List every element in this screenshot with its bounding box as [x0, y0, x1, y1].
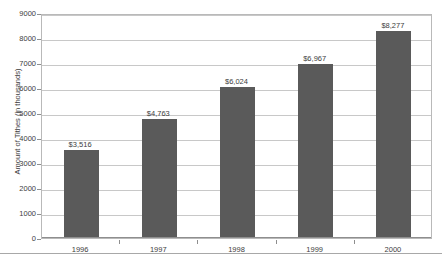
- bar: [298, 64, 333, 238]
- x-tick-mark: [197, 240, 198, 244]
- y-tick-label: 7000: [2, 60, 36, 68]
- bar: [220, 87, 255, 238]
- x-tick-mark: [354, 240, 355, 244]
- y-axis-title: Amount of Tithes (in thousands): [13, 47, 22, 197]
- y-tick-label: 4000: [2, 135, 36, 143]
- y-tick-label: 0: [2, 235, 36, 243]
- y-tick-label: 8000: [2, 35, 36, 43]
- y-tick-label-wrap: 8000: [0, 35, 36, 43]
- bar: [376, 31, 411, 238]
- bottom-divider: [0, 253, 442, 254]
- bar: [64, 150, 99, 238]
- bar-value-label: $3,516: [50, 140, 110, 149]
- y-tick-mark: [37, 239, 41, 240]
- x-tick-mark: [276, 240, 277, 244]
- bar: [142, 119, 177, 238]
- y-tick-label-wrap: 2000: [0, 185, 36, 193]
- y-tick-label: 9000: [2, 10, 36, 18]
- x-tick-mark: [119, 240, 120, 244]
- y-tick-label-wrap: 3000: [0, 160, 36, 168]
- y-tick-label: 2000: [2, 185, 36, 193]
- bar-value-label: $8,277: [363, 21, 423, 30]
- bar-value-label: $6,024: [207, 77, 267, 86]
- y-tick-label: 3000: [2, 160, 36, 168]
- bar-value-label: $4,763: [128, 109, 188, 118]
- gridline: [42, 15, 431, 16]
- plot-area: [41, 14, 432, 239]
- y-tick-label-wrap: 1000: [0, 210, 36, 218]
- y-tick-label-wrap: 0: [0, 235, 36, 243]
- y-tick-label-wrap: 6000: [0, 85, 36, 93]
- bar-value-label: $6,967: [285, 54, 345, 63]
- y-tick-label: 5000: [2, 110, 36, 118]
- x-axis-baseline: [42, 237, 431, 238]
- gridline: [42, 40, 431, 41]
- y-tick-label-wrap: 4000: [0, 135, 36, 143]
- y-tick-label-wrap: 5000: [0, 110, 36, 118]
- y-tick-label: 1000: [2, 210, 36, 218]
- bar-chart: Amount of Tithes (in thousands) 01000200…: [0, 0, 442, 262]
- y-tick-label: 6000: [2, 85, 36, 93]
- y-tick-label-wrap: 7000: [0, 60, 36, 68]
- gridline: [42, 65, 431, 66]
- y-tick-label-wrap: 9000: [0, 10, 36, 18]
